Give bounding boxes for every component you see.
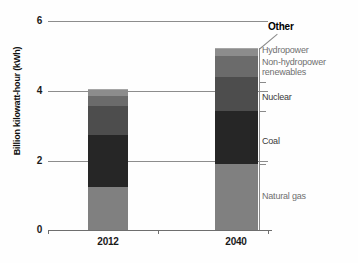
bar-2040-segment-hydropower: [215, 49, 258, 56]
bar-2012-segment-hydropower: [88, 90, 128, 96]
callout-spine-line: [259, 48, 260, 230]
bar-2040-segment-nuclear: [215, 77, 258, 111]
callout-tick-nuclear: [259, 111, 266, 112]
callout-label-natural-gas: Natural gas: [262, 191, 306, 201]
callout-label-coal: Coal: [262, 136, 280, 146]
x-axis-tick-middle: [158, 230, 159, 234]
bar-2040-segment-other: [215, 48, 258, 49]
callout-label-hydropower: Hydropower: [262, 45, 309, 55]
y-tick-label-4: 4: [24, 85, 42, 96]
y-tick-label-2: 2: [24, 155, 42, 166]
bar-2012-segment-other: [88, 89, 128, 90]
x-axis-line: [48, 230, 272, 231]
x-axis-tick-end: [268, 230, 269, 234]
bar-2040-segment-coal: [215, 111, 258, 164]
callout-tick-hydropower: [259, 82, 266, 83]
callout-label-other: Other: [268, 22, 294, 32]
y-axis-title: Billion kilowatt-hour (kWh): [12, 21, 22, 181]
stacked-bar-chart: Billion kilowatt-hour (kWh) 6 4 2 0: [0, 0, 358, 263]
bar-2012-segment-non-hydropower-renewables: [88, 96, 128, 106]
x-axis-tick-start: [48, 230, 49, 234]
y-tick-label-6: 6: [24, 15, 42, 26]
callout-label-nuclear: Nuclear: [262, 92, 292, 102]
bar-2012: [88, 89, 128, 230]
gridline-6: [48, 21, 268, 22]
callout-tick-coal: [259, 164, 266, 165]
bar-2012-segment-natural-gas: [88, 187, 128, 230]
bar-2040-segment-natural-gas: [215, 164, 258, 230]
bar-2040: [215, 48, 258, 230]
x-category-label-2040: 2040: [211, 236, 261, 247]
y-tick-label-0: 0: [24, 224, 42, 235]
x-category-label-2012: 2012: [83, 236, 133, 247]
bar-2040-segment-non-hydropower-renewables: [215, 56, 258, 77]
callout-label-non-hydropower-renewables: Non-hydropower renewables: [262, 57, 326, 77]
bar-2012-segment-coal: [88, 135, 128, 187]
bar-2012-segment-nuclear: [88, 106, 128, 135]
